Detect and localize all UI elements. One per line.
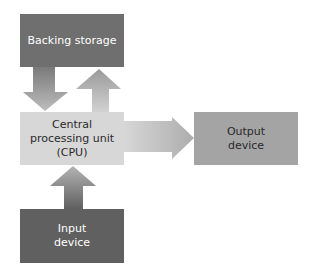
- arrow-cpu-to-backing: [76, 69, 121, 112]
- input-device-label: Input device: [54, 222, 90, 250]
- arrow-cpu-to-output: [124, 117, 194, 159]
- output-device-label: Output device: [227, 125, 265, 153]
- arrow-input-to-cpu: [50, 166, 96, 209]
- cpu-box: Central processing unit (CPU): [20, 112, 124, 165]
- backing-storage-box: Backing storage: [20, 14, 124, 67]
- input-device-box: Input device: [20, 209, 124, 263]
- cpu-label: Central processing unit (CPU): [30, 118, 114, 160]
- arrow-backing-to-cpu: [23, 67, 68, 111]
- backing-storage-label: Backing storage: [28, 34, 117, 48]
- output-device-box: Output device: [194, 112, 298, 165]
